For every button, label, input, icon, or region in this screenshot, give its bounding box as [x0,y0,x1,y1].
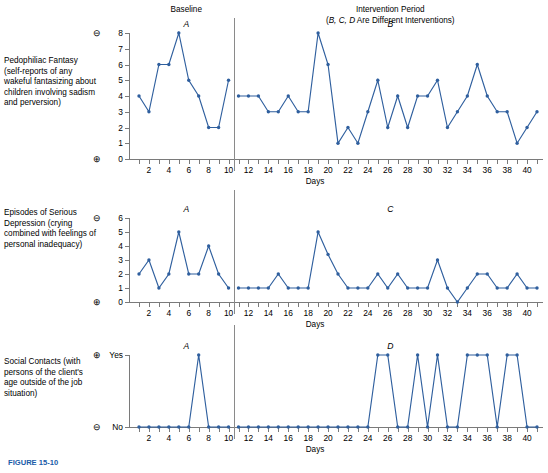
x-tick-label: 20 [320,165,336,175]
data-point [356,425,359,428]
data-point [257,94,260,97]
x-tick-label: 18 [300,308,316,318]
data-point [426,425,429,428]
x-tick-label: 16 [280,433,296,443]
data-point [406,286,409,289]
data-point [297,286,300,289]
data-point [505,353,508,356]
data-point [346,286,349,289]
data-point [147,258,150,261]
chart-panel-pedophiliac-fantasy: Pedophiliac Fantasy (self-reports of any… [0,0,548,190]
x-tick-label: 18 [300,165,316,175]
data-point [466,286,469,289]
data-point [267,425,270,428]
x-tick-label: 20 [320,433,336,443]
phase-divider [234,18,235,171]
data-point [167,63,170,66]
series-line [239,355,538,427]
data-point [187,79,190,82]
intervention-condition-letter: D [234,341,547,351]
x-tick-label: 36 [479,308,495,318]
data-point [366,286,369,289]
x-tick-label: 32 [439,433,455,443]
x-tick-label: 8 [201,433,217,443]
data-point [376,353,379,356]
x-axis-caption: Days [255,177,375,186]
plot-area: 0123456246810121416182022242628303234363… [105,218,543,302]
data-point [197,353,200,356]
data-point [237,425,240,428]
data-point [336,272,339,275]
data-point [456,425,459,428]
data-point [476,272,479,275]
data-point [496,425,499,428]
intervention-condition-letter: B [234,19,547,29]
x-tick-label: 36 [479,433,495,443]
x-tick-label: 24 [360,165,376,175]
x-tick-label: 28 [400,433,416,443]
x-tick-label: 38 [499,433,515,443]
data-point [436,79,439,82]
data-point [177,425,180,428]
data-point [167,272,170,275]
x-tick-label: 12 [240,165,256,175]
data-point [446,425,449,428]
data-point [197,272,200,275]
data-point [217,272,220,275]
x-tick-label: 8 [201,308,217,318]
x-tick-label: 16 [280,308,296,318]
data-point [326,253,329,256]
axis-direction-top-glyph: ⊖ [93,214,101,223]
data-point [525,425,528,428]
data-point [227,79,230,82]
axis-direction-bottom-glyph: ⊖ [93,423,101,432]
data-point [396,272,399,275]
plot-area: NoYes24681012141618202224262830323436384… [105,355,543,427]
data-point [267,110,270,113]
data-point [297,425,300,428]
data-point [476,63,479,66]
panel-row-label: Social Contacts (with persons of the cli… [4,357,96,399]
data-point [476,353,479,356]
data-point [217,425,220,428]
x-tick-label: 26 [380,165,396,175]
x-tick-label: 34 [459,308,475,318]
data-point [376,79,379,82]
panel-row-label: Episodes of Serious Depression (crying c… [4,208,96,250]
x-tick-label: 2 [141,165,157,175]
data-point [187,272,190,275]
data-point [366,110,369,113]
data-point [277,110,280,113]
x-tick-label: 22 [340,433,356,443]
data-point [496,110,499,113]
x-tick-label: 4 [161,165,177,175]
data-point [177,230,180,233]
x-tick-label: 12 [240,308,256,318]
data-point [456,300,459,303]
x-tick-label: 20 [320,308,336,318]
data-point [486,94,489,97]
data-point [515,272,518,275]
data-point [277,272,280,275]
data-point [187,425,190,428]
data-point [257,286,260,289]
x-tick-label: 4 [161,308,177,318]
x-tick-label: 2 [141,433,157,443]
data-point [157,425,160,428]
data-point [247,94,250,97]
x-tick-label: 4 [161,433,177,443]
data-point [486,272,489,275]
intervention-title-line1: Intervention Period [234,5,547,16]
data-point [366,425,369,428]
data-point [525,126,528,129]
chart-panel-social-contacts: Social Contacts (with persons of the cli… [0,325,548,450]
figure-container: Pedophiliac Fantasy (self-reports of any… [0,0,548,473]
figure-caption: FIGURE 15-10 [8,458,58,467]
data-point [147,110,150,113]
x-tick-label: 34 [459,433,475,443]
x-tick-label: 18 [300,433,316,443]
data-point [396,425,399,428]
x-tick-label: 14 [260,433,276,443]
data-point [167,425,170,428]
data-point [346,126,349,129]
